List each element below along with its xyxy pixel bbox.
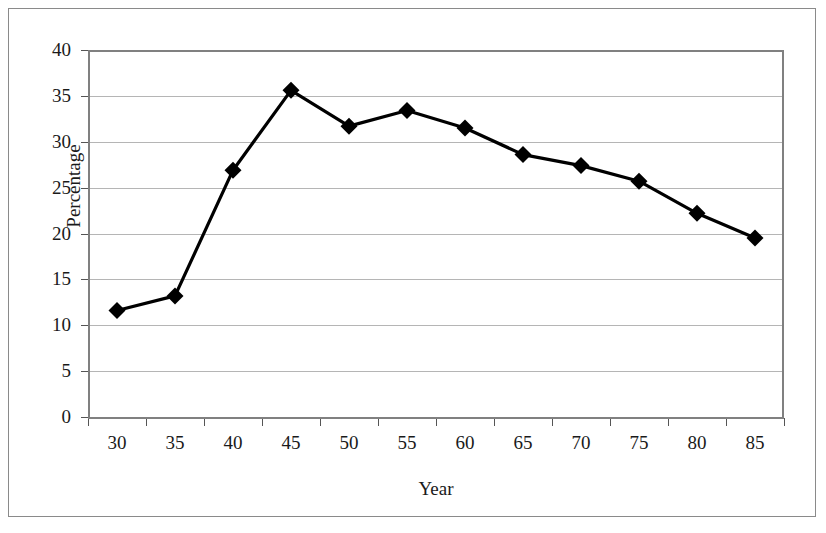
x-axis-tick-label: 40 bbox=[203, 433, 263, 452]
x-axis-tick-label: 70 bbox=[551, 433, 611, 452]
y-axis-tick bbox=[81, 371, 88, 372]
x-axis-tick bbox=[146, 418, 147, 426]
data-point-marker bbox=[341, 118, 358, 135]
data-point-marker bbox=[399, 102, 416, 119]
y-axis-tick bbox=[81, 325, 88, 326]
x-axis-tick bbox=[436, 418, 437, 426]
x-axis-title: Year bbox=[88, 478, 784, 500]
chart-figure: Percentage Year 0510152025303540 3035404… bbox=[0, 0, 826, 533]
y-axis-tick bbox=[81, 142, 88, 143]
y-axis-tick-label: 25 bbox=[8, 178, 71, 197]
y-axis-tick-label: 0 bbox=[8, 407, 71, 426]
y-axis-tick bbox=[81, 279, 88, 280]
x-axis-tick-label: 85 bbox=[725, 433, 785, 452]
x-axis-tick bbox=[88, 418, 89, 426]
data-point-marker bbox=[167, 287, 184, 304]
data-point-marker bbox=[689, 205, 706, 222]
y-axis-tick-label: 35 bbox=[8, 86, 71, 105]
y-axis-tick-label: 5 bbox=[8, 361, 71, 380]
x-axis-tick bbox=[726, 418, 727, 426]
y-axis-tick bbox=[81, 234, 88, 235]
x-axis-tick bbox=[784, 418, 785, 426]
data-point-marker bbox=[457, 119, 474, 136]
data-point-marker bbox=[109, 302, 126, 319]
data-point-marker bbox=[573, 157, 590, 174]
x-axis-tick bbox=[262, 418, 263, 426]
y-axis-tick bbox=[81, 417, 88, 418]
plot-area bbox=[88, 50, 784, 419]
x-axis-tick bbox=[494, 418, 495, 426]
x-axis-tick-label: 30 bbox=[87, 433, 147, 452]
x-axis-tick bbox=[378, 418, 379, 426]
y-axis-tick-label: 15 bbox=[8, 269, 71, 288]
data-point-marker bbox=[747, 230, 764, 247]
x-axis-tick bbox=[668, 418, 669, 426]
y-axis-tick-label: 30 bbox=[8, 132, 71, 151]
x-axis-tick-label: 75 bbox=[609, 433, 669, 452]
y-axis-tick-label: 20 bbox=[8, 224, 71, 243]
x-axis-tick-label: 80 bbox=[667, 433, 727, 452]
y-axis-tick bbox=[81, 96, 88, 97]
data-point-marker bbox=[631, 173, 648, 190]
y-axis-tick bbox=[81, 188, 88, 189]
x-axis-tick-label: 65 bbox=[493, 433, 553, 452]
x-axis-tick bbox=[320, 418, 321, 426]
y-axis-tick-label: 40 bbox=[8, 40, 71, 59]
y-axis-tick bbox=[81, 50, 88, 51]
x-axis-tick bbox=[204, 418, 205, 426]
data-series-line bbox=[88, 50, 784, 419]
x-axis-tick bbox=[552, 418, 553, 426]
y-axis-tick-label: 10 bbox=[8, 315, 71, 334]
x-axis-tick-label: 50 bbox=[319, 433, 379, 452]
x-axis-tick-label: 55 bbox=[377, 433, 437, 452]
x-axis-tick-label: 60 bbox=[435, 433, 495, 452]
x-axis-tick-label: 45 bbox=[261, 433, 321, 452]
x-axis-tick-label: 35 bbox=[145, 433, 205, 452]
series-line bbox=[117, 90, 755, 310]
x-axis-tick bbox=[610, 418, 611, 426]
data-point-marker bbox=[515, 146, 532, 163]
